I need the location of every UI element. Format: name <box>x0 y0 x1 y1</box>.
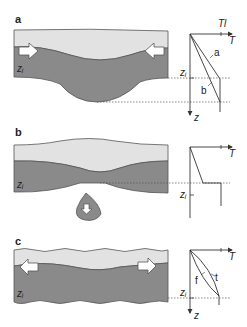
z-marker-a: zᵢ <box>179 67 187 78</box>
depth-label-c: zᵢ <box>16 288 24 299</box>
z-marker-b: zᵢ <box>179 189 187 200</box>
panel-label-b: b <box>15 126 22 138</box>
graph-a: Tl T z a b zᵢ <box>179 18 236 123</box>
curve-label-b: b <box>201 85 207 96</box>
curve-label-f: f <box>195 275 198 286</box>
panel-label-c: c <box>15 235 21 247</box>
x-axis-label-a: T <box>229 35 236 46</box>
curve-label-a: a <box>214 47 220 58</box>
z-marker-c: zᵢ <box>179 287 187 298</box>
panel-label-a: a <box>15 13 22 25</box>
panel-b: b zᵢ T zᵢ <box>14 126 236 220</box>
y-axis-label-a: z <box>193 112 199 123</box>
graph-c: T z f t zᵢ <box>179 248 236 321</box>
graph-b: T zᵢ <box>179 145 236 218</box>
depth-label-b: zᵢ <box>16 179 24 190</box>
diagram-canvas: a zᵢ Tl T z a b zᵢ <box>0 0 247 327</box>
y-axis-label-c: z <box>193 310 199 321</box>
top-label-tl: Tl <box>218 18 227 29</box>
panel-a: a zᵢ Tl T z a b zᵢ <box>14 13 236 123</box>
depth-label-a: zᵢ <box>16 63 24 74</box>
curve-label-t: t <box>215 272 218 283</box>
x-axis-label-c: T <box>229 251 236 262</box>
panel-c: c zᵢ T z f t zᵢ <box>14 235 236 321</box>
x-axis-label-b: T <box>229 148 236 159</box>
